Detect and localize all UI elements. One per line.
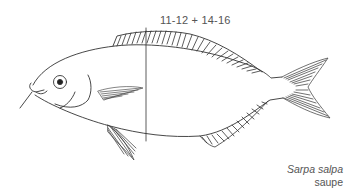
caudal-fin (282, 58, 330, 118)
body-outline-top (33, 45, 282, 85)
dorsal-fin-rays (117, 31, 260, 73)
species-label: Sarpa salpa saupe (287, 163, 343, 189)
pupil (57, 79, 62, 84)
body-outline-bottom (35, 95, 283, 137)
pelvic-fin (108, 125, 136, 160)
common-name: saupe (287, 176, 343, 189)
operculum-edge (60, 92, 75, 108)
fin-ray-count-label: 11-12 + 14-16 (160, 14, 231, 26)
barbel-line (20, 92, 32, 108)
latin-name: Sarpa salpa (287, 163, 343, 176)
pectoral-fin (98, 87, 143, 100)
